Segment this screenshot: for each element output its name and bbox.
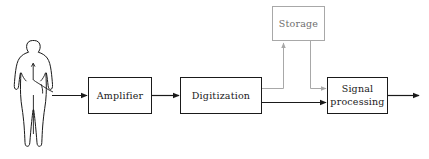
subject-human-figure: [14, 41, 53, 147]
node-amplifier[interactable]: Amplifier: [89, 78, 152, 114]
node-storage[interactable]: Storage: [273, 7, 325, 41]
node-signal-processing[interactable]: Signal processing: [328, 78, 388, 114]
diagram-canvas: Amplifier Digitization Storage Signal pr…: [0, 0, 429, 159]
edge-digitization-to-storage: [262, 43, 284, 89]
node-digitization-label: Digitization: [192, 90, 250, 101]
node-signal-processing-label-line2: processing: [330, 96, 384, 107]
node-amplifier-label: Amplifier: [96, 90, 144, 101]
node-storage-label: Storage: [279, 18, 319, 29]
node-digitization[interactable]: Digitization: [181, 78, 262, 114]
biosignal-block-diagram: Amplifier Digitization Storage Signal pr…: [0, 0, 429, 159]
edge-storage-to-signal-processing: [311, 40, 327, 89]
node-signal-processing-label-line1: Signal: [342, 83, 374, 94]
